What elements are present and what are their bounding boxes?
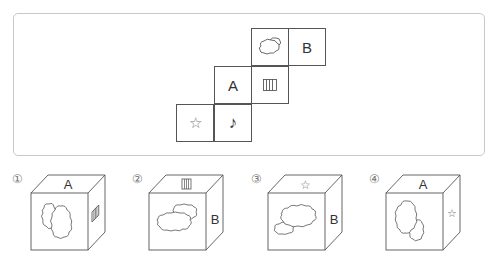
svg-text:☆: ☆ [447,207,457,219]
cube-option-3: ☆ B [268,175,342,250]
cube-option-2: B [149,175,223,250]
svg-text:☆: ☆ [300,178,311,192]
option-cubes: A B ☆ B A ☆ [0,0,499,266]
svg-text:A: A [419,177,428,192]
svg-text:A: A [64,177,73,192]
svg-text:B: B [330,212,339,227]
cube-option-1: A [31,175,105,250]
svg-text:B: B [211,212,220,227]
cube-option-4: A ☆ [386,175,460,250]
